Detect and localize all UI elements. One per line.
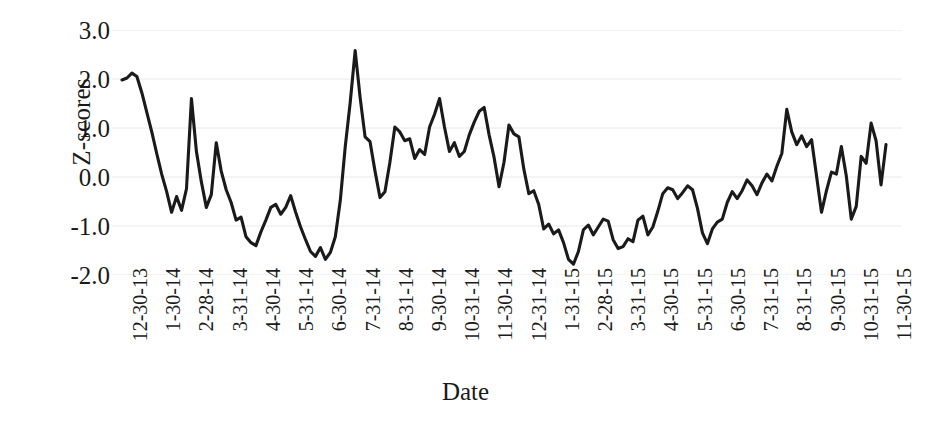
x-axis-tick-label: 12-30-13	[130, 268, 150, 376]
x-axis-tick-label: 1-31-15	[562, 268, 582, 376]
x-axis-tick-label: 7-31-15	[761, 268, 781, 376]
x-axis-tick-label: 5-31-14	[296, 268, 316, 376]
x-axis-tick-label: 9-30-14	[429, 268, 449, 376]
y-axis-tick-label: 3.0	[40, 18, 110, 43]
x-axis-tick-label: 10-31-14	[462, 268, 482, 376]
x-axis-tick-label: 8-31-15	[794, 268, 814, 376]
x-axis-tick-label: 5-31-15	[695, 268, 715, 376]
x-axis-tick-label: 2-28-14	[196, 268, 216, 376]
x-axis-tick-label: 1-30-14	[163, 268, 183, 376]
x-axis-tick-label: 11-30-14	[495, 268, 515, 376]
x-axis-tick-label: 4-30-14	[263, 268, 283, 376]
chart-figure: Z-scores 3.02.01.00.0-1.0-2.0 12-30-131-…	[0, 0, 931, 423]
y-axis-tick-label: -1.0	[40, 214, 110, 239]
y-axis-tick-label: 2.0	[40, 67, 110, 92]
x-axis-tick-label: 3-31-14	[230, 268, 250, 376]
x-axis-tick-label: 8-31-14	[396, 268, 416, 376]
x-axis-tick-label: 11-30-15	[894, 268, 914, 376]
x-axis-tick-labels: 12-30-131-30-142-28-143-31-144-30-145-31…	[0, 268, 931, 368]
x-axis-tick-label: 10-31-15	[861, 268, 881, 376]
x-axis-tick-label: 6-30-15	[728, 268, 748, 376]
y-axis-tick-label: 1.0	[40, 116, 110, 141]
x-axis-tick-label: 4-30-15	[661, 268, 681, 376]
x-axis-tick-label: 3-31-15	[628, 268, 648, 376]
x-axis-tick-label: 7-31-14	[363, 268, 383, 376]
gridlines	[112, 30, 902, 275]
series-line-z-scores	[122, 51, 886, 265]
y-axis-tick-label: 0.0	[40, 165, 110, 190]
plot-area	[112, 30, 902, 275]
x-axis-tick-label: 2-28-15	[595, 268, 615, 376]
x-axis-tick-label: 6-30-14	[329, 268, 349, 376]
line-series	[122, 51, 886, 265]
x-axis-title: Date	[0, 378, 931, 406]
x-axis-tick-label: 12-31-14	[529, 268, 549, 376]
x-axis-tick-label: 9-30-15	[828, 268, 848, 376]
